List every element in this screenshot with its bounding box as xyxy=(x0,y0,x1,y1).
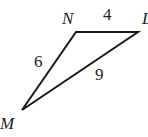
side-label-nl: 4 xyxy=(103,5,112,24)
side-label-nm: 6 xyxy=(34,52,43,71)
vertex-label-l: L xyxy=(141,9,148,28)
vertex-label-m: M xyxy=(0,114,15,133)
vertex-label-n: N xyxy=(61,9,75,28)
side-label-ml: 9 xyxy=(95,65,104,84)
triangle-mnl xyxy=(22,32,138,110)
triangle-diagram: N L M 4 6 9 xyxy=(0,0,148,137)
